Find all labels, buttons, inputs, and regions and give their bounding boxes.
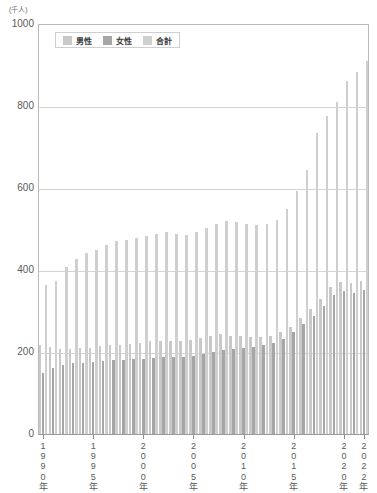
legend-item: 女性: [103, 35, 132, 46]
x-axis-tick-marks: [38, 435, 369, 439]
bar-group: [48, 24, 58, 434]
y-axis-tick-label: 600: [2, 183, 34, 193]
legend-label: 女性: [116, 35, 132, 46]
bar-group: [319, 24, 329, 434]
bar-group: [158, 24, 168, 434]
bar-group: [309, 24, 319, 434]
bar-group: [88, 24, 98, 434]
bar-group: [78, 24, 88, 434]
bar-group: [219, 24, 229, 434]
x-axis-tick-mark: [344, 435, 345, 439]
bar-group: [98, 24, 108, 434]
y-axis-unit-label: (千人): [9, 4, 28, 14]
y-axis-tick-label: 200: [2, 347, 34, 357]
bar-group: [249, 24, 259, 434]
bar-group: [269, 24, 279, 434]
bar-group: [38, 24, 48, 434]
x-axis-tick-label: 2 0 1 0 年: [239, 441, 249, 492]
y-axis-tick-label: 1000: [2, 19, 34, 29]
chart-legend: 男性女性合計: [55, 32, 180, 48]
legend-label: 男性: [76, 35, 92, 46]
bar-group: [108, 24, 118, 434]
bar-group: [188, 24, 198, 434]
bar-group: [339, 24, 349, 434]
legend-swatch-icon: [103, 36, 112, 45]
bar-chart: (千人) 02004006008001000 1 9 9 0 年1 9 9 5 …: [0, 0, 377, 493]
x-axis-tick-label: 2 0 2 0 年: [339, 441, 349, 492]
bar-group: [118, 24, 128, 434]
bar-group: [239, 24, 249, 434]
bar-group: [148, 24, 158, 434]
bar-group: [209, 24, 219, 434]
x-axis-tick-label: 1 9 9 5 年: [88, 441, 98, 492]
x-axis-labels: 1 9 9 0 年1 9 9 5 年2 0 0 0 年2 0 0 5 年2 0 …: [38, 441, 369, 493]
bar-group: [58, 24, 68, 434]
x-axis-tick-label: 2 0 2 2 年: [359, 441, 369, 492]
x-axis-tick-label: 2 0 1 5 年: [289, 441, 299, 492]
bar-group: [299, 24, 309, 434]
bar-group: [349, 24, 359, 434]
x-axis-tick-mark: [143, 435, 144, 439]
x-axis-tick-mark: [364, 435, 365, 439]
y-axis-tick-label: 0: [2, 429, 34, 439]
legend-item: 合計: [143, 35, 172, 46]
bar-group: [259, 24, 269, 434]
bar-group: [178, 24, 188, 434]
bar-total: [366, 61, 369, 434]
y-axis-tick-label: 400: [2, 265, 34, 275]
legend-label: 合計: [156, 35, 172, 46]
x-axis-tick-mark: [43, 435, 44, 439]
bar-group: [329, 24, 339, 434]
bar-group: [168, 24, 178, 434]
x-axis-tick-label: 1 9 9 0 年: [38, 441, 48, 492]
bars-layer: [38, 24, 369, 434]
x-axis-tick-mark: [244, 435, 245, 439]
bar-group: [128, 24, 138, 434]
x-axis-tick-label: 2 0 0 0 年: [138, 441, 148, 492]
x-axis-tick-mark: [193, 435, 194, 439]
x-axis-tick-mark: [93, 435, 94, 439]
bar-group: [229, 24, 239, 434]
bar-group: [138, 24, 148, 434]
legend-swatch-icon: [63, 36, 72, 45]
bar-group: [359, 24, 369, 434]
bar-group: [279, 24, 289, 434]
bar-group: [198, 24, 208, 434]
y-axis-tick-label: 800: [2, 101, 34, 111]
bar-group: [289, 24, 299, 434]
legend-item: 男性: [63, 35, 92, 46]
x-axis-tick-mark: [294, 435, 295, 439]
x-axis-tick-label: 2 0 0 5 年: [188, 441, 198, 492]
legend-swatch-icon: [143, 36, 152, 45]
bar-group: [68, 24, 78, 434]
